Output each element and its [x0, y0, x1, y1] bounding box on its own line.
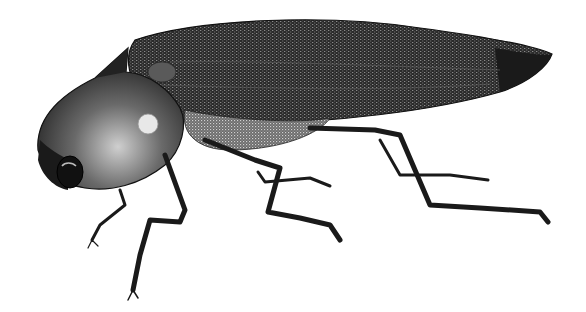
elytra: [128, 20, 552, 124]
beetle-illustration: [0, 0, 586, 312]
eye: [57, 156, 83, 188]
head: [38, 48, 184, 190]
illustration-canvas: [0, 0, 586, 312]
thorax-spot: [138, 114, 158, 134]
